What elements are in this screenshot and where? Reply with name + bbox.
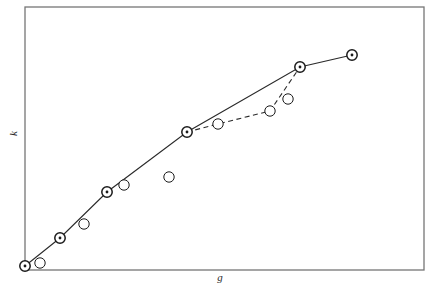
data-point-filled: [20, 261, 30, 271]
data-point-open: [283, 94, 293, 104]
data-point-filled: [55, 233, 65, 243]
data-point-filled: [102, 187, 112, 197]
data-point-filled: [295, 62, 305, 72]
x-axis-label: g: [0, 272, 440, 283]
data-point-dashed: [213, 119, 223, 129]
axes-frame: [25, 7, 424, 270]
figure-canvas: k g: [0, 0, 440, 288]
filled-circle-markers: [20, 50, 357, 271]
data-point-open: [79, 219, 89, 229]
data-point-dashed: [265, 106, 275, 116]
open-circle-markers: [35, 94, 293, 268]
plot-area: [0, 0, 440, 288]
solid-main-line: [25, 55, 352, 266]
data-point-open: [164, 172, 174, 182]
data-point-open: [119, 180, 129, 190]
data-point-open: [35, 258, 45, 268]
y-axis-label: k: [8, 125, 19, 143]
clipped-top-label: [30, 0, 56, 4]
data-point-filled: [347, 50, 357, 60]
data-point-filled: [182, 127, 192, 137]
dashed-branch-markers: [213, 106, 275, 129]
